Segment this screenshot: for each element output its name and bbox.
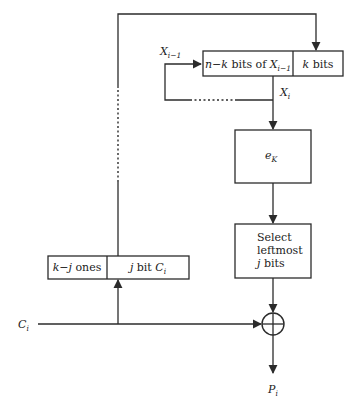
- cfb-diagram: n−k bits of Xi−1 k bits Xi−1 Xi eK Selec…: [0, 0, 359, 411]
- shift-register: n−k bits of Xi−1 k bits: [203, 51, 343, 76]
- feedback-input-label: Xi−1: [159, 45, 181, 60]
- padding-right-label: j bit Ci: [127, 261, 167, 276]
- xor-icon: [262, 313, 284, 335]
- shift-register-right-label: k bits: [303, 58, 334, 71]
- register-output: Xi: [273, 76, 291, 129]
- plaintext-label: Pi: [267, 383, 278, 398]
- ciphertext-input: Ci: [18, 280, 261, 333]
- select-box: Select leftmost j bits: [235, 224, 311, 278]
- padding-register: k−j ones j bit Ci: [48, 256, 189, 279]
- select-line2: leftmost: [257, 244, 303, 257]
- select-line1: Select: [257, 231, 292, 244]
- plaintext-output: Pi: [267, 335, 278, 398]
- select-line3: j bits: [254, 257, 285, 270]
- encrypt-box: eK: [235, 130, 311, 183]
- padding-left-label: k−j ones: [53, 261, 102, 274]
- ciphertext-label: Ci: [18, 318, 29, 333]
- register-output-label: Xi: [279, 86, 291, 101]
